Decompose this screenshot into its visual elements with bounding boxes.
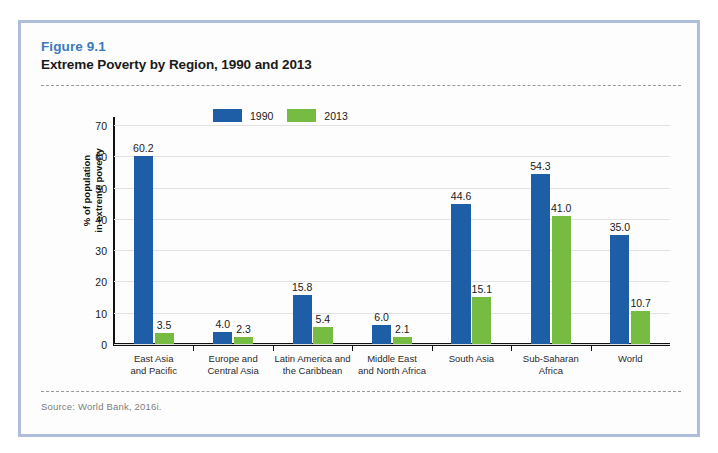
- bar-1990-3[interactable]: 6.0: [372, 325, 391, 344]
- chart-legend: 1990 2013: [213, 109, 348, 122]
- category-tick: [432, 345, 433, 351]
- gridline-0: 0: [114, 344, 670, 345]
- category-tick: [591, 345, 592, 351]
- bar-value-label: 60.2: [133, 142, 153, 154]
- category-tick: [273, 345, 274, 351]
- plot-area: 010203040506070 60.23.5East Asiaand Paci…: [114, 125, 670, 344]
- bar-value-label: 35.0: [610, 221, 630, 233]
- y-axis-title-line1: % of population: [81, 126, 93, 256]
- legend-item-2013: 2013: [287, 109, 347, 122]
- y-tick-label-0: 0: [101, 339, 107, 351]
- bar-value-label: 15.1: [472, 283, 492, 295]
- bar-value-label: 2.3: [236, 323, 251, 335]
- bar-2013-5[interactable]: 41.0: [552, 216, 571, 344]
- category-label-line: and North Africa: [340, 365, 444, 377]
- bar-group: 4.02.3Europe andCentral Asia: [193, 125, 272, 344]
- y-tick-label-70: 70: [95, 120, 107, 132]
- bar-group: 60.23.5East Asiaand Pacific: [114, 125, 193, 344]
- bar-group: 15.85.4Latin America andthe Caribbean: [273, 125, 352, 344]
- bar-value-label: 5.4: [316, 313, 331, 325]
- bar-group: 54.341.0Sub-SaharanAfrica: [511, 125, 590, 344]
- legend-label-1990: 1990: [250, 110, 273, 122]
- figure-title: Extreme Poverty by Region, 1990 and 2013: [41, 56, 661, 74]
- legend-swatch-1990-icon: [213, 109, 242, 122]
- chart-area: % of population in extreme poverty 1990 …: [41, 99, 686, 384]
- bar-1990-1[interactable]: 4.0: [213, 332, 232, 345]
- bar-value-label: 44.6: [451, 190, 471, 202]
- y-tick-label-40: 40: [95, 214, 107, 226]
- bar-2013-2[interactable]: 5.4: [313, 327, 332, 344]
- dashed-rule-bottom: [41, 391, 681, 392]
- figure-header: Figure 9.1 Extreme Poverty by Region, 19…: [41, 38, 661, 74]
- bar-2013-0[interactable]: 3.5: [155, 333, 174, 344]
- category-tick: [352, 345, 353, 351]
- bar-group: 6.02.1Middle Eastand North Africa: [352, 125, 431, 344]
- legend-swatch-2013-icon: [287, 109, 316, 122]
- category-label-line: World: [578, 353, 682, 365]
- dashed-rule-top: [41, 85, 681, 86]
- y-tick-label-20: 20: [95, 276, 107, 288]
- y-tick-label-10: 10: [95, 308, 107, 320]
- bar-1990-0[interactable]: 60.2: [134, 156, 153, 344]
- bar-1990-6[interactable]: 35.0: [610, 235, 629, 345]
- bar-2013-3[interactable]: 2.1: [393, 337, 412, 344]
- y-tick-label-30: 30: [95, 245, 107, 257]
- bar-2013-1[interactable]: 2.3: [234, 337, 253, 344]
- y-tick-label-60: 60: [95, 151, 107, 163]
- figure-inner-panel: Figure 9.1 Extreme Poverty by Region, 19…: [21, 23, 697, 434]
- figure-frame: Figure 9.1 Extreme Poverty by Region, 19…: [18, 20, 700, 437]
- bar-group: 44.615.1South Asia: [432, 125, 511, 344]
- bar-1990-2[interactable]: 15.8: [293, 295, 312, 344]
- figure-number: Figure 9.1: [41, 38, 661, 55]
- bar-value-label: 10.7: [630, 297, 650, 309]
- bar-value-label: 3.5: [157, 319, 172, 331]
- bar-value-label: 2.1: [395, 323, 410, 335]
- bar-value-label: 4.0: [215, 318, 230, 330]
- bar-1990-4[interactable]: 44.6: [451, 204, 470, 344]
- legend-label-2013: 2013: [324, 110, 347, 122]
- category-label-line: Africa: [499, 365, 603, 377]
- bar-value-label: 15.8: [292, 281, 312, 293]
- legend-item-1990: 1990: [213, 109, 273, 122]
- plot-inner: 010203040506070 60.23.5East Asiaand Paci…: [114, 125, 670, 344]
- category-tick: [193, 345, 194, 351]
- bar-1990-5[interactable]: 54.3: [531, 174, 550, 344]
- y-tick-label-50: 50: [95, 183, 107, 195]
- bar-2013-6[interactable]: 10.7: [631, 311, 650, 344]
- category-tick: [511, 345, 512, 351]
- bar-value-label: 54.3: [530, 160, 550, 172]
- bar-value-label: 6.0: [374, 311, 389, 323]
- figure-source: Source: World Bank, 2016i.: [41, 401, 162, 412]
- bar-value-label: 41.0: [551, 202, 571, 214]
- bar-2013-4[interactable]: 15.1: [472, 297, 491, 344]
- bar-group: 35.010.7World: [591, 125, 670, 344]
- category-label: World: [578, 353, 682, 365]
